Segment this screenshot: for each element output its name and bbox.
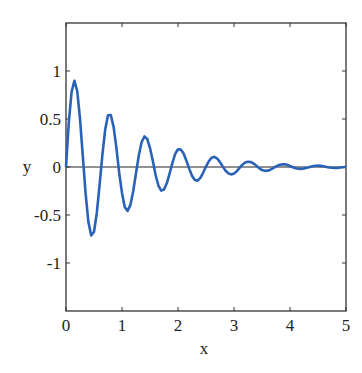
- line-chart: 012345-1-0.500.51 x y: [0, 0, 362, 373]
- x-tick-label: 3: [230, 316, 239, 335]
- x-tick-label: 1: [118, 316, 127, 335]
- x-tick-label: 0: [62, 316, 71, 335]
- y-tick-label: 1: [53, 62, 62, 81]
- x-axis-label: x: [200, 339, 209, 358]
- y-tick-label: 0: [53, 158, 62, 177]
- x-tick-label: 5: [342, 316, 351, 335]
- y-tick-label: 0.5: [40, 110, 61, 129]
- x-tick-label: 2: [174, 316, 183, 335]
- y-tick-label: -1: [47, 254, 61, 273]
- x-tick-label: 4: [286, 316, 295, 335]
- y-tick-label: -0.5: [34, 206, 61, 225]
- y-axis-label: y: [23, 157, 32, 176]
